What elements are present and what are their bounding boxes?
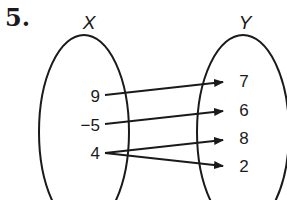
domain-label: X (82, 12, 97, 33)
domain-element: −5 (81, 116, 100, 135)
mapping-arrow-4-to-8 (105, 140, 223, 153)
range-label: Y (239, 12, 253, 33)
range-element: 2 (239, 157, 248, 176)
domain-element: 4 (91, 144, 100, 163)
diagram-canvas: X Y 9 −5 4 7 6 8 2 (0, 0, 287, 200)
mapping-diagram: 5. X Y 9 −5 4 7 6 8 2 (0, 0, 287, 200)
range-element: 6 (239, 101, 248, 120)
mapping-arrow-4-to-2 (105, 153, 223, 166)
domain-element: 9 (91, 87, 100, 106)
mapping-arrow-neg5-to-6 (105, 111, 223, 124)
range-element: 8 (239, 129, 248, 148)
range-element: 7 (239, 72, 248, 91)
